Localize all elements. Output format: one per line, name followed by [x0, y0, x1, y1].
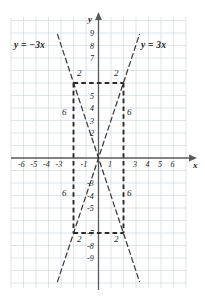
- run-label-top-left: 2: [77, 68, 82, 78]
- rise-label-upper-left: 6: [62, 107, 67, 117]
- run-label-top-right: 2: [114, 68, 119, 78]
- y-tick-8: 8: [90, 42, 94, 51]
- equation-label-left: y = −3x: [14, 40, 45, 50]
- y-axis-label: y: [88, 14, 92, 24]
- x-tick--3: -3: [56, 160, 63, 169]
- x-tick--6: -6: [18, 160, 25, 169]
- x-tick-1: 1: [108, 160, 112, 169]
- y-tick-3: 3: [90, 117, 94, 126]
- x-tick--1: -1: [81, 160, 88, 169]
- y-tick-5: 5: [90, 92, 94, 101]
- y-tick--7: -7: [87, 229, 94, 238]
- graph-figure: y = −3x y = 3x y x -6 -5 -4 -3 -1 1 3 4 …: [0, 0, 205, 300]
- y-tick-4: 4: [90, 104, 94, 113]
- run-label-bottom-left: 2: [77, 234, 82, 244]
- equation-label-right: y = 3x: [141, 40, 166, 50]
- run-label-bottom-right: 2: [114, 234, 119, 244]
- x-tick-6: 6: [171, 160, 175, 169]
- y-tick--3: -3: [87, 179, 94, 188]
- y-tick-7: 7: [90, 54, 94, 63]
- y-tick--4: -4: [87, 192, 94, 201]
- x-axis-label: x: [193, 160, 198, 170]
- y-tick-9: 9: [90, 29, 94, 38]
- x-tick--5: -5: [31, 160, 38, 169]
- rise-label-lower-left: 6: [62, 188, 67, 198]
- x-tick-5: 5: [158, 160, 162, 169]
- y-tick-2: 2: [90, 129, 94, 138]
- axis-arrowheads: [95, 12, 197, 161]
- y-tick--8: -8: [87, 242, 94, 251]
- axis-lines: [11, 14, 192, 290]
- x-tick-4: 4: [146, 160, 150, 169]
- y-axis-arrow: [95, 12, 102, 20]
- y-tick--5: -5: [87, 204, 94, 213]
- x-tick-3: 3: [133, 160, 137, 169]
- x-tick--4: -4: [43, 160, 50, 169]
- rise-label-lower-right: 6: [127, 188, 132, 198]
- y-tick--9: -9: [87, 254, 94, 263]
- rise-label-upper-right: 6: [127, 107, 132, 117]
